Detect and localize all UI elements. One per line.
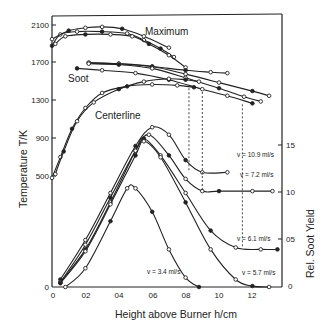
soot-yield-marker (234, 278, 238, 282)
tick-2100: 2100 (31, 21, 49, 30)
soot-yield-marker (234, 246, 238, 250)
temperature-marker (75, 30, 79, 34)
xtick-08: 08 (182, 291, 191, 300)
temperature-marker (84, 33, 88, 37)
temperature-marker (117, 63, 121, 67)
temperature-marker (150, 83, 154, 87)
temperature-marker (134, 71, 138, 75)
rtick-05: 05 (286, 235, 295, 244)
soot-yield-marker (209, 229, 213, 233)
soot-yield-marker (167, 248, 171, 252)
temperature-marker (84, 26, 88, 30)
temperature-marker (54, 172, 58, 176)
soot-yield-marker (184, 191, 188, 195)
label-v34: v = 3.4 ml/s (147, 268, 181, 275)
temperature-marker (192, 85, 196, 89)
soot-yield-marker (84, 243, 88, 247)
temperature-marker (100, 69, 104, 73)
right-ticks: 15 10 05 0 (278, 141, 295, 291)
x-axis-label: Height above Burner h/cm (115, 308, 237, 320)
temperature-marker (259, 100, 263, 104)
tick-1300: 1300 (31, 96, 49, 105)
soot-yield-marker (184, 158, 188, 162)
temperature-marker (50, 176, 54, 180)
soot-yield-marker (109, 202, 113, 206)
soot-yield-marker (84, 238, 88, 242)
soot-yield-marker (184, 276, 188, 280)
soot-yield-marker (184, 201, 188, 205)
temperature-marker (184, 78, 188, 82)
soot-yield-marker (125, 187, 129, 191)
xtick-02: 02 (82, 291, 91, 300)
temperature-marker (100, 91, 104, 95)
soot-yield-curve (60, 138, 277, 282)
soot-yield-marker (251, 284, 255, 288)
temperature-marker (201, 87, 205, 91)
soot-yield-marker (271, 189, 275, 193)
tick-900: 900 (36, 134, 50, 143)
temperature-marker (100, 30, 104, 34)
label-v109: v = 10.9 ml/s (237, 151, 275, 158)
temperature-marker (226, 71, 230, 75)
soot-yield-marker (64, 285, 68, 289)
temperature-marker (117, 87, 121, 91)
temperature-marker (251, 102, 255, 106)
temperature-marker (175, 84, 179, 88)
soot-yield-marker (267, 285, 271, 289)
rtick-15: 15 (286, 141, 295, 150)
temperature-marker (167, 53, 171, 57)
soot-yield-marker (109, 219, 113, 223)
chart: 2100 1700 1300 900 500 0 0 02 04 06 08 1… (0, 0, 329, 331)
xtick-06: 06 (149, 291, 158, 300)
soot-yield-marker (167, 133, 171, 137)
tick-0: 0 (45, 283, 50, 292)
label-maximum: Maximum (145, 26, 188, 37)
temperature-marker (197, 80, 201, 84)
temperature-marker (120, 27, 124, 31)
rtick-10: 10 (286, 188, 295, 197)
temperature-marker (167, 77, 171, 81)
rtick-0: 0 (288, 282, 293, 291)
soot-yield-marker (150, 125, 154, 129)
top-border (52, 14, 282, 16)
soot-yield-marker (59, 281, 63, 285)
soot-yield-marker (184, 177, 188, 181)
soot-yield-marker (167, 154, 171, 158)
temperature-marker (130, 35, 134, 39)
temperature-marker (167, 46, 171, 50)
soot-yield-marker (84, 249, 88, 253)
label-v57: v = 5.7 ml/s (242, 269, 276, 276)
xtick-10: 10 (215, 291, 224, 300)
temperature-marker (75, 119, 79, 123)
temperature-marker (87, 62, 91, 66)
temperature-marker (150, 67, 154, 71)
temperature-marker (62, 150, 66, 154)
temperature-marker (75, 67, 79, 71)
label-soot: Soot (68, 73, 89, 84)
temperature-curve (52, 84, 194, 177)
temperature-marker (217, 81, 221, 85)
y-left-axis-label: Temperature T/K (17, 130, 29, 208)
temperature-marker (209, 70, 213, 74)
temperature-marker (217, 86, 221, 90)
y-right-axis-label: Rel. Soot Yield (304, 209, 316, 278)
bottom-ticks: 0 02 04 06 08 10 12 (51, 291, 257, 300)
temperature-marker (67, 29, 71, 33)
temperature-marker (147, 42, 151, 46)
tick-500: 500 (36, 172, 50, 181)
soot-yield-marker (251, 189, 255, 193)
soot-yield-marker (84, 266, 88, 270)
label-centerline: Centerline (95, 110, 141, 121)
soot-yield-marker (159, 155, 163, 159)
soot-yield-marker (134, 187, 138, 191)
tick-1700: 1700 (31, 58, 49, 67)
temperature-marker (64, 35, 68, 39)
temperature-marker (184, 69, 188, 73)
temperature-marker (50, 37, 54, 41)
temperature-marker (226, 94, 230, 98)
temperature-marker (142, 80, 146, 84)
xtick-04: 04 (115, 291, 124, 300)
label-v72: v = 7.2 ml/s (240, 171, 274, 178)
temperature-marker (242, 95, 246, 99)
temperature-marker (251, 89, 255, 93)
